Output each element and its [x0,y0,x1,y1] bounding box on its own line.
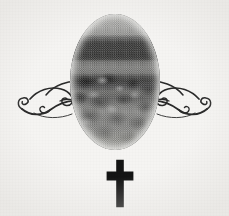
oval-highlight-specks [70,71,160,150]
latin-cross [105,159,135,208]
memorial-ornament-card [0,0,229,216]
oval-portrait [70,14,160,150]
latin-cross-icon [105,159,135,208]
